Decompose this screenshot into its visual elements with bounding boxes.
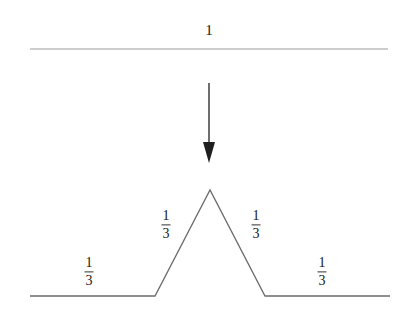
- fraction-bar: [162, 225, 171, 226]
- fraction-numerator: 1: [252, 208, 261, 223]
- fraction-numerator: 1: [162, 208, 171, 223]
- arrow-head-icon: [203, 142, 215, 163]
- fraction-denominator: 3: [85, 274, 94, 289]
- figure-canvas: [0, 0, 408, 320]
- fraction-bar: [85, 272, 94, 273]
- fraction-numerator: 1: [318, 255, 327, 270]
- initiator-length-label: 1: [205, 23, 213, 38]
- koch-curve-figure: 1 1 3 1 3 1 3 1 3: [0, 0, 408, 320]
- segment-length-label-right-base: 1 3: [318, 255, 327, 288]
- segment-length-label-left-slope: 1 3: [162, 208, 171, 241]
- fraction-bar: [318, 272, 327, 273]
- segment-length-label-right-slope: 1 3: [252, 208, 261, 241]
- transformation-arrow: [203, 83, 215, 163]
- fraction-bar: [252, 225, 261, 226]
- fraction-denominator: 3: [318, 274, 327, 289]
- segment-length-label-left-base: 1 3: [85, 255, 94, 288]
- fraction-denominator: 3: [252, 227, 261, 242]
- fraction-denominator: 3: [162, 227, 171, 242]
- fraction-numerator: 1: [85, 255, 94, 270]
